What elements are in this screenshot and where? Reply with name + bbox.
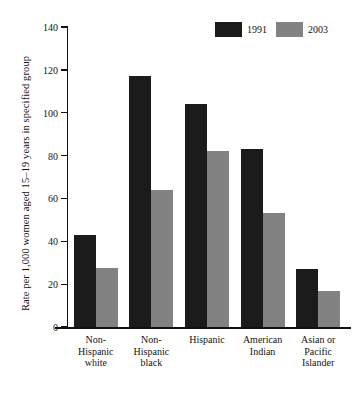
legend-swatch-1991 xyxy=(215,22,242,37)
category-label-line: Hispanic xyxy=(121,346,183,358)
y-axis-tick xyxy=(61,26,68,27)
bar-2003-non-hispanic-black xyxy=(151,190,173,327)
bar-1991-non-hispanic-black xyxy=(129,76,151,327)
bar-1991-asian-or-pacific-islander xyxy=(296,269,318,327)
y-axis-tick xyxy=(61,155,68,156)
legend-label-2003: 2003 xyxy=(308,24,328,35)
category-label-non-hispanic-white: Non-Hispanicwhite xyxy=(65,334,127,369)
bar-2003-american-indian xyxy=(263,213,285,327)
bar-group xyxy=(185,27,229,327)
y-axis-tick-label: 100 xyxy=(2,107,58,118)
category-label-line: Islander xyxy=(287,357,349,369)
bar-1991-hispanic xyxy=(185,104,207,327)
legend-swatch-2003 xyxy=(276,22,303,37)
legend-item-2003: 2003 xyxy=(276,22,328,37)
y-axis-tick-label: 140 xyxy=(2,22,58,33)
category-label-line: American xyxy=(232,334,294,346)
y-axis-tick xyxy=(61,69,68,70)
category-label-line: Hispanic xyxy=(176,334,238,346)
category-label-line: Non- xyxy=(65,334,127,346)
y-axis-tick xyxy=(61,284,68,285)
y-axis-tick xyxy=(61,241,68,242)
bar-chart-figure: Rate per 1,000 women aged 15–19 years in… xyxy=(0,0,356,393)
legend-item-1991: 1991 xyxy=(215,22,267,37)
bar-group xyxy=(74,27,118,327)
plot-area xyxy=(68,27,346,327)
y-axis-tick-label: 120 xyxy=(2,64,58,75)
y-axis-tick xyxy=(61,198,68,199)
y-axis-tick xyxy=(61,326,68,327)
y-axis-tick-label: 80 xyxy=(2,150,58,161)
y-axis-tick-labels: 020406080100120140 xyxy=(0,0,58,393)
category-label-line: Non- xyxy=(121,334,183,346)
bar-2003-asian-or-pacific-islander xyxy=(318,291,340,327)
bar-2003-non-hispanic-white xyxy=(96,268,118,327)
category-label-line: Hispanic xyxy=(65,346,127,358)
legend-label-1991: 1991 xyxy=(247,24,267,35)
bar-group xyxy=(129,27,173,327)
chart-legend: 19912003 xyxy=(215,22,328,37)
category-label-line: black xyxy=(121,357,183,369)
y-axis-tick-label: 20 xyxy=(2,279,58,290)
category-label-line: white xyxy=(65,357,127,369)
y-axis-tick-label: 60 xyxy=(2,193,58,204)
category-label-hispanic: Hispanic xyxy=(176,334,238,346)
category-label-line: Pacific xyxy=(287,346,349,358)
category-label-line: Indian xyxy=(232,346,294,358)
category-label-american-indian: AmericanIndian xyxy=(232,334,294,357)
y-axis-tick-label: 0 xyxy=(2,322,58,333)
bar-1991-american-indian xyxy=(241,149,263,327)
bar-2003-hispanic xyxy=(207,151,229,327)
y-axis-tick xyxy=(61,112,68,113)
bar-1991-non-hispanic-white xyxy=(74,235,96,327)
category-label-non-hispanic-black: Non-Hispanicblack xyxy=(121,334,183,369)
category-label-asian-or-pacific-islander: Asian orPacificIslander xyxy=(287,334,349,369)
x-axis-line xyxy=(55,327,351,329)
bar-group xyxy=(241,27,285,327)
y-axis-tick-label: 40 xyxy=(2,236,58,247)
category-label-line: Asian or xyxy=(287,334,349,346)
bar-group xyxy=(296,27,340,327)
